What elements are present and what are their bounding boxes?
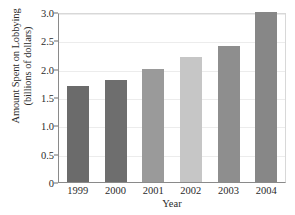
bar-2004 bbox=[255, 12, 277, 182]
bar-2000 bbox=[105, 80, 127, 182]
x-tick-label: 2001 bbox=[143, 185, 164, 196]
bar-2003 bbox=[218, 46, 240, 182]
y-tick-label: 0 bbox=[49, 178, 54, 189]
x-tick-label: 2002 bbox=[180, 185, 201, 196]
y-tick-label: 2.0 bbox=[41, 64, 54, 75]
plot-area bbox=[58, 13, 286, 183]
x-tick-label: 1999 bbox=[67, 185, 88, 196]
y-tick-label: 1.0 bbox=[41, 121, 54, 132]
x-axis-title: Year bbox=[58, 198, 286, 209]
y-tick-label: 1.5 bbox=[41, 93, 54, 104]
x-tick-label: 2004 bbox=[256, 185, 277, 196]
y-tick-label: 3.0 bbox=[41, 8, 54, 19]
bar-chart-figure: Amount Spent on Lobbying (billions of do… bbox=[0, 0, 295, 215]
bar-2002 bbox=[180, 57, 202, 182]
bar-1999 bbox=[67, 86, 89, 182]
y-tick-label: 2.5 bbox=[41, 36, 54, 47]
bar-2001 bbox=[142, 69, 164, 182]
x-tick-label: 2000 bbox=[105, 185, 126, 196]
bars-layer bbox=[59, 14, 285, 182]
y-axis-tick-labels: 00.51.01.52.02.53.0 bbox=[26, 0, 54, 215]
y-axis-title-line1: Amount Spent on Lobbying bbox=[10, 8, 22, 123]
x-tick-label: 2003 bbox=[218, 185, 239, 196]
y-tick-label: 0.5 bbox=[41, 149, 54, 160]
